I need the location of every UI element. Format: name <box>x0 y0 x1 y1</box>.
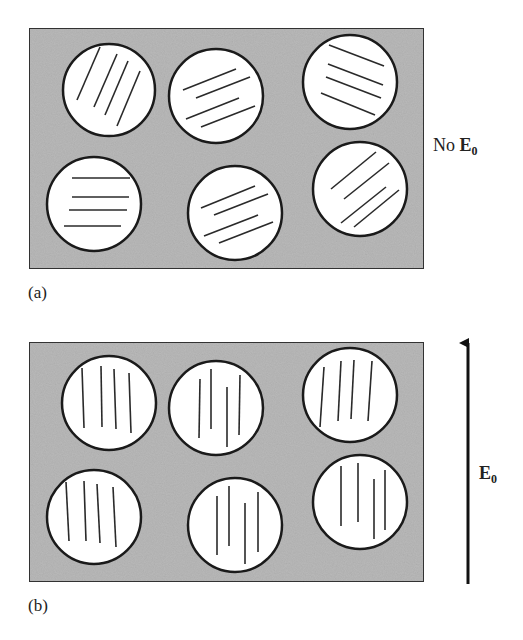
panel-b-droplet <box>303 348 397 442</box>
droplet-circle <box>62 356 156 450</box>
director-line <box>199 379 200 438</box>
droplet-circle <box>47 157 141 251</box>
panel-a-field-label: No E0 <box>433 135 478 158</box>
droplet-circle <box>313 455 407 549</box>
panel-a-droplet <box>303 35 397 129</box>
diagram: No E0 (a) E0 (b) <box>0 0 523 640</box>
panel-b-field-label: E0 <box>479 463 497 486</box>
droplet-circle <box>303 348 397 442</box>
droplet-circle <box>188 166 282 260</box>
panel-b-with-field: E0 (b) <box>28 342 497 615</box>
panel-b-droplet <box>62 356 156 450</box>
panel-a-droplet <box>47 157 141 251</box>
panel-b-droplet <box>169 361 263 455</box>
panel-b-droplet <box>47 470 141 564</box>
panel-a-droplet <box>313 142 407 236</box>
panel-a-droplet <box>63 44 155 136</box>
droplet-circle <box>47 470 141 564</box>
panel-b-droplet <box>188 478 282 572</box>
panel-b-label: (b) <box>28 596 48 615</box>
droplet-circle <box>169 49 263 143</box>
director-line <box>101 366 102 427</box>
droplet-circle <box>169 361 263 455</box>
director-line <box>239 375 240 435</box>
panel-a-label: (a) <box>28 283 47 302</box>
panel-a-no-field: No E0 (a) <box>28 28 478 302</box>
droplet-circle <box>188 478 282 572</box>
panel-a-droplet <box>169 49 263 143</box>
panel-a-droplet <box>188 166 282 260</box>
panel-b-droplet <box>313 455 407 549</box>
droplet-circle <box>303 35 397 129</box>
droplet-circle <box>63 44 155 136</box>
